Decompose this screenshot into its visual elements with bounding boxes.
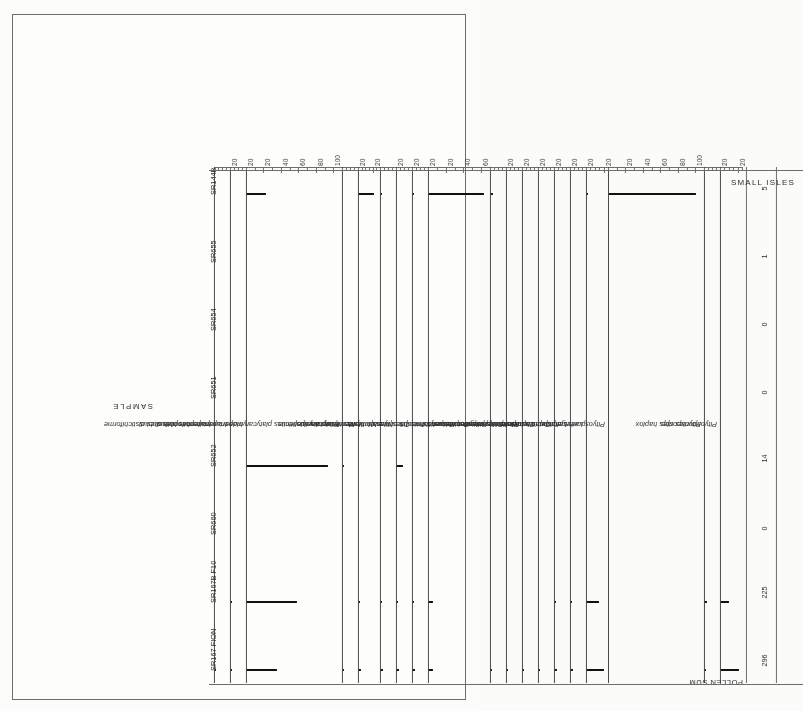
sample-label: SR167 FION [209,629,218,671]
taxon-bar [523,669,524,671]
sample-label: SR144B [209,167,218,195]
taxon-bar [587,669,604,671]
taxon-bar [491,669,492,671]
taxon-bar [609,193,696,195]
taxon-scale-axis [609,167,705,168]
taxon-bar [231,601,232,603]
taxon-bar [343,669,344,671]
scale-tick-label: 20 [507,159,514,166]
taxon-bar [343,465,344,467]
taxon-bar [413,601,414,603]
scale-tick-label: 20 [721,159,728,166]
site-title: SMALL ISLES [731,178,795,187]
scale-tick-label: 20 [523,159,530,166]
taxon-bar [413,669,415,671]
footer-rule [209,170,803,171]
sample-label: SR655 [209,240,218,263]
taxon-bar [705,601,707,603]
taxon-bar [721,669,739,671]
taxon-bar [381,669,383,671]
taxon-bar [587,193,588,195]
taxon-bar [429,669,433,671]
taxon-bar [359,669,361,671]
pollen-sum-value: 0 [760,527,769,531]
sample-label: SR660 [209,512,218,535]
scan-sheet-frame: 20Inaperturopollenites distichiforme20In… [12,14,466,700]
taxon-bar [397,601,398,603]
scale-tick-label: 100 [334,155,341,166]
scale-tick-label: 20 [264,159,271,166]
scale-tick-label: 20 [605,159,612,166]
taxon-bar [247,465,328,467]
taxon-name-label: Pityosporites diplox [542,421,605,430]
scale-tick-label: 80 [679,159,686,166]
taxon-name-label: Pityosporites spp. [659,421,717,430]
scale-tick-label: 40 [282,159,289,166]
taxon-bar [429,601,433,603]
pollen-sum-column: 2962250140015POLLEN SUM [747,167,777,683]
sample-label: SR652 [209,444,218,467]
taxon-bar [721,601,729,603]
scale-tick-label: 60 [661,159,668,166]
rotated-diagram-canvas: 20Inaperturopollenites distichiforme20In… [13,15,465,699]
scale-tick-label: 40 [644,159,651,166]
taxon-bar [247,601,297,603]
pollen-sum-value: 14 [760,455,769,463]
taxon-bar [555,601,556,603]
taxon-bar [231,669,232,671]
scale-tick-label: 80 [317,159,324,166]
taxon-bar [571,601,572,603]
scale-tick-label: 100 [696,155,703,166]
sample-label: SR654 [209,308,218,331]
sample-label: SR167B F10 [209,561,218,603]
scale-tick-label: 60 [299,159,306,166]
scale-tick-label: 20 [587,159,594,166]
taxon-bar [397,465,403,467]
pollen-sum-value: 5 [760,187,769,191]
scale-tick-label: 20 [626,159,633,166]
scale-tick-label: 20 [539,159,546,166]
taxon-zero-line [608,167,609,683]
pollen-sum-value: 0 [760,323,769,327]
taxon-bar [587,601,599,603]
scale-tick-label: 20 [429,159,436,166]
taxon-scale-axis [247,167,343,168]
taxon-bar [491,193,493,195]
pollen-sum-rule-left [776,167,777,683]
scale-tick-label: 20 [739,159,746,166]
taxon-bar [705,669,706,671]
taxon-bar [571,669,573,671]
pollen-sum-rule-right [746,167,747,683]
taxon-bar [539,669,540,671]
taxon-bar [507,669,508,671]
pollen-sum-value: 0 [760,391,769,395]
pollen-sum-value: 225 [760,587,769,599]
taxon-bar [247,193,266,195]
scale-tick-label: 20 [247,159,254,166]
scale-tick-label: 20 [571,159,578,166]
taxon-bar [397,669,399,671]
pollen-sum-value: 1 [760,255,769,259]
scale-tick-label: 20 [231,159,238,166]
header-rule [209,684,803,685]
taxon-bar [555,669,557,671]
scale-tick-label: 20 [359,159,366,166]
taxon-lane: 20Pityosporites spp. [721,167,743,683]
taxon-bar [359,601,360,603]
taxon-bar [359,193,374,195]
taxon-bar [381,601,382,603]
taxon-bar [247,669,277,671]
scale-tick-label: 20 [447,159,454,166]
taxon-zero-line [720,167,721,683]
scale-tick-label: 20 [397,159,404,166]
scale-tick-label: 60 [482,159,489,166]
pollen-sum-label: POLLEN SUM [689,678,743,687]
sample-label: SR651 [209,376,218,399]
taxon-bar [381,193,382,195]
scale-tick-label: 40 [464,159,471,166]
sample-axis-title: SAMPLE [112,402,153,411]
scale-tick-label: 20 [413,159,420,166]
pollen-sum-value: 296 [760,655,769,667]
scale-tick-label: 20 [555,159,562,166]
